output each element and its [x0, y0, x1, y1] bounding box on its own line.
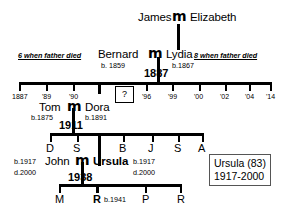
- annotation-lydia-age: 8 when father died: [194, 52, 257, 59]
- timeline-tick-99: [172, 82, 174, 91]
- child-g3-3: J: [148, 143, 154, 154]
- john-death: d.2000: [14, 169, 36, 176]
- person-elizabeth: Elizabeth: [190, 12, 236, 24]
- child-g3-2: B: [119, 143, 126, 154]
- child-g4-0: M: [55, 194, 64, 205]
- person-bernard: Bernard: [98, 49, 138, 61]
- sibling-drop-g3-0: [50, 133, 52, 142]
- lydia-birth: b.1867: [172, 62, 194, 69]
- descent-line-g1-to-g2: [177, 24, 180, 50]
- timeline-tick-90: [73, 82, 75, 91]
- sibling-drop-g3-4: [178, 133, 180, 142]
- ursula-death: d.2000: [133, 169, 155, 176]
- sibling-drop-g4-2: [145, 184, 147, 193]
- timeline-tick-tom-marriage: [98, 82, 101, 94]
- timeline-label-5: '00: [194, 93, 203, 100]
- timeline-tick-02: [225, 82, 227, 91]
- child-g4-2: P: [142, 194, 149, 205]
- john-birth: b.1917: [14, 158, 36, 165]
- marriage-year-g3: 1911: [59, 120, 83, 131]
- person-ursula: Ursula: [93, 156, 128, 168]
- ursula-info-line1: Ursula (83): [214, 157, 266, 170]
- timeline-tick-14: [270, 82, 272, 91]
- sibling-drop-g3-1: [77, 133, 79, 142]
- descent-line-g4-stem: [81, 162, 84, 186]
- unknown-event-box[interactable]: ?: [115, 86, 134, 103]
- timeline-label-6: '02: [220, 93, 229, 100]
- timeline-label-0: 1887: [12, 93, 28, 100]
- genealogy-timeline-diagram: James m Elizabeth 6 when father died Ber…: [0, 0, 289, 210]
- annotation-lydia-age-text: when father died: [198, 51, 257, 60]
- person-james: James: [138, 12, 171, 24]
- person-dora: Dora: [85, 102, 110, 114]
- ursula-info-line2: 1917-2000: [214, 170, 266, 183]
- timeline-axis: [19, 82, 271, 85]
- timeline-tick-00: [199, 82, 201, 91]
- bernard-birth: b. 1859: [101, 62, 125, 69]
- ursula-info-box: Ursula (83) 1917-2000: [209, 154, 271, 186]
- sibling-bar-g3: [50, 133, 203, 136]
- timeline-tick-89: [46, 82, 48, 91]
- timeline-label-7: '04: [245, 93, 254, 100]
- timeline-tick-96: [146, 82, 148, 91]
- annotation-bernard-age: 6 when father died: [18, 52, 81, 59]
- sibling-drop-g4-3: [180, 184, 182, 193]
- child-g4-1-birth: b.1941: [104, 196, 126, 203]
- tom-birth: b.1875: [31, 114, 53, 121]
- child-g3-5: A: [198, 143, 205, 154]
- descent-line-g2-to-timeline: [157, 57, 160, 82]
- timeline-label-1: '89: [42, 93, 51, 100]
- sibling-drop-g3-5: [202, 133, 204, 142]
- sibling-bar-g4: [59, 184, 181, 187]
- sibling-drop-g4-1: [96, 184, 99, 193]
- marriage-symbol-g1: m: [172, 9, 187, 23]
- person-tom: Tom: [39, 102, 60, 114]
- sibling-drop-g3-3: [152, 133, 154, 142]
- sibling-drop-g4-0: [59, 184, 61, 193]
- timeline-label-4: '99: [168, 93, 177, 100]
- descent-line-g3-stem: [72, 108, 75, 134]
- timeline-tick-04: [249, 82, 251, 91]
- annotation-bernard-age-text: when father died: [22, 51, 81, 60]
- timeline-label-3: '96: [142, 93, 151, 100]
- child-g3-4: S: [174, 143, 181, 154]
- timeline-label-8: '14: [266, 93, 275, 100]
- child-g3-0: D: [46, 143, 54, 154]
- ursula-birth: b.1917: [133, 158, 155, 165]
- child-g4-1: R: [93, 194, 101, 205]
- child-g4-3: R: [177, 194, 185, 205]
- marriage-symbol-g2: m: [148, 46, 163, 60]
- sibling-drop-g3-2: [123, 133, 125, 142]
- person-lydia: Lydia: [166, 49, 193, 61]
- timeline-tick-1887: [19, 82, 21, 91]
- person-john: John: [45, 156, 70, 168]
- dora-birth: b.1891: [85, 114, 107, 121]
